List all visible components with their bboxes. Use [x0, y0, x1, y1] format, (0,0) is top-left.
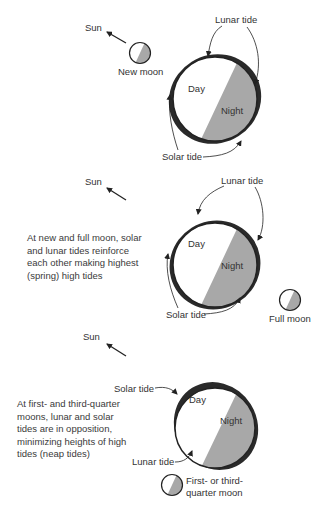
caption-line: each other making highest	[27, 257, 142, 270]
caption-line: moons, lunar and solar	[17, 411, 126, 424]
earth-icon	[157, 366, 274, 486]
day-label: Day	[189, 394, 206, 405]
caption-line: At first- and third-quarter	[17, 398, 126, 411]
night-label: Night	[221, 260, 244, 271]
moon-label-line-1: First- or third-	[186, 475, 243, 486]
lunar-tide-label: Lunar tide	[132, 456, 174, 467]
sun-arrow-icon	[107, 188, 126, 200]
caption-line: tides (neap tides)	[17, 448, 126, 461]
day-label: Day	[188, 238, 205, 249]
caption-line: and lunar tides reinforce	[27, 245, 142, 258]
lunar-tide-label: Lunar tide	[221, 175, 263, 186]
sun-label: Sun	[85, 22, 102, 33]
day-label: Day	[188, 83, 205, 94]
solar-tide-label: Solar tide	[162, 151, 202, 162]
solar-tide-label: Solar tide	[166, 309, 206, 320]
moon-label: New moon	[118, 66, 163, 77]
solar-tide-label: Solar tide	[114, 383, 154, 394]
neap-tide-caption: At first- and third-quarter moons, lunar…	[17, 398, 126, 461]
earth-icon	[152, 37, 278, 161]
panel-new-moon: Sun New moon Day Night Lunar tide Solar …	[85, 14, 278, 162]
caption-line: tides are in opposition,	[17, 423, 126, 436]
caption-line: At new and full moon, solar	[27, 232, 142, 245]
new-moon-icon	[130, 40, 156, 66]
moon-label-line-2: quarter moon	[186, 487, 243, 498]
sun-arrow-icon	[107, 32, 126, 43]
quarter-moon-icon	[162, 472, 188, 498]
caption-line: minimizing heights of high	[17, 436, 126, 449]
full-moon-icon	[280, 287, 306, 313]
lunar-tide-label: Lunar tide	[215, 14, 257, 25]
spring-tide-caption: At new and full moon, solar and lunar ti…	[27, 232, 142, 282]
night-label: Night	[221, 105, 244, 116]
sun-arrow-icon	[107, 344, 126, 356]
caption-line: (spring) high tides	[27, 270, 142, 283]
moon-label: Full moon	[269, 313, 311, 324]
sun-label: Sun	[83, 331, 100, 342]
night-label: Night	[220, 415, 243, 426]
sun-label: Sun	[85, 176, 102, 187]
